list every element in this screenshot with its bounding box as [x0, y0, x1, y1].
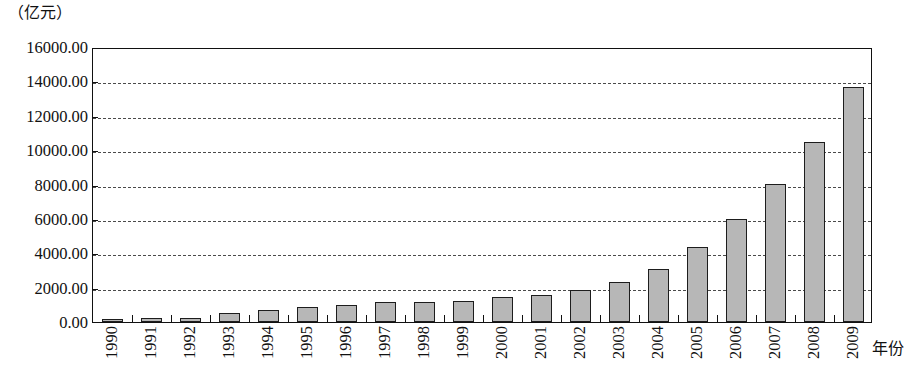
x-axis-tick-mark [288, 315, 289, 322]
y-axis-tick-label: 2000.00 [2, 281, 88, 298]
x-axis-tick-label: 2005 [687, 311, 707, 359]
x-axis-tick-mark [678, 315, 679, 322]
x-axis-tick-label: 1992 [180, 311, 200, 359]
x-axis-tick-mark [405, 315, 406, 322]
x-axis-tick-label: 2004 [648, 311, 668, 359]
x-axis-tick-mark [132, 315, 133, 322]
y-axis-tick-label: 8000.00 [2, 178, 88, 195]
gridline [93, 290, 871, 291]
y-axis-tick-label: 0.00 [2, 315, 88, 332]
x-axis-tick-mark [249, 315, 250, 322]
x-axis-tick-label: 2001 [531, 311, 551, 359]
y-axis-tick-labels: 0.002000.004000.006000.008000.0010000.00… [0, 0, 88, 373]
plot-area [92, 48, 872, 323]
x-axis-tick-mark [483, 315, 484, 322]
y-axis-tick-label: 12000.00 [2, 109, 88, 126]
gridline [93, 187, 871, 188]
x-axis-tick-mark [639, 315, 640, 322]
x-axis-tick-label: 2000 [492, 311, 512, 359]
y-axis-tick-label: 6000.00 [2, 212, 88, 229]
x-axis-tick-mark [717, 315, 718, 322]
x-axis-title: 年份 [872, 340, 904, 358]
gridline [93, 118, 871, 119]
y-axis-tick-label: 16000.00 [2, 40, 88, 57]
gridline [93, 255, 871, 256]
x-axis-tick-label: 1996 [336, 311, 356, 359]
bar [726, 219, 748, 322]
y-axis-tick-mark [92, 117, 98, 118]
x-axis-tick-mark [522, 315, 523, 322]
x-axis-tick-label: 2003 [609, 311, 629, 359]
y-axis-tick-mark [92, 151, 98, 152]
x-axis-tick-mark [444, 315, 445, 322]
x-axis-tick-label: 2009 [843, 311, 863, 359]
y-axis-tick-mark [92, 220, 98, 221]
x-axis-tick-mark [327, 315, 328, 322]
x-axis-tick-mark [795, 315, 796, 322]
x-axis-tick-label: 1997 [375, 311, 395, 359]
x-axis-tick-label: 1990 [102, 311, 122, 359]
gridline [93, 152, 871, 153]
y-axis-tick-label: 4000.00 [2, 246, 88, 263]
y-axis-tick-label: 10000.00 [2, 143, 88, 160]
x-axis-tick-label: 1999 [453, 311, 473, 359]
bar-chart-figure: （亿元） 0.002000.004000.006000.008000.00100… [0, 0, 905, 373]
gridline [93, 221, 871, 222]
gridline [93, 83, 871, 84]
x-axis-tick-mark [561, 315, 562, 322]
x-axis-tick-labels: 1990199119921993199419951996199719981999… [92, 325, 872, 373]
x-axis-tick-label: 1993 [219, 311, 239, 359]
x-axis-tick-label: 2007 [765, 311, 785, 359]
x-axis-tick-label: 2008 [804, 311, 824, 359]
x-axis-tick-label: 1998 [414, 311, 434, 359]
y-axis-tick-mark [92, 289, 98, 290]
x-axis-tick-mark [600, 315, 601, 322]
x-axis-tick-mark [171, 315, 172, 322]
x-axis-tick-mark [210, 315, 211, 322]
x-axis-tick-label: 1994 [258, 311, 278, 359]
y-axis-tick-mark [92, 82, 98, 83]
bar [804, 142, 826, 322]
y-axis-tick-label: 14000.00 [2, 74, 88, 91]
x-axis-tick-label: 2002 [570, 311, 590, 359]
x-axis-tick-label: 1991 [141, 311, 161, 359]
x-axis-tick-mark [834, 315, 835, 322]
y-axis-tick-mark [92, 186, 98, 187]
x-axis-tick-mark [366, 315, 367, 322]
x-axis-tick-label: 1995 [297, 311, 317, 359]
y-axis-tick-mark [92, 254, 98, 255]
bar [765, 184, 787, 322]
x-axis-tick-label: 2006 [726, 311, 746, 359]
x-axis-tick-mark [756, 315, 757, 322]
bar [843, 87, 865, 322]
